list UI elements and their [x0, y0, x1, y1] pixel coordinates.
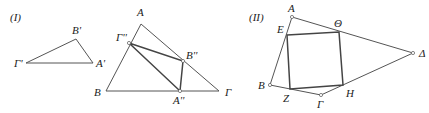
inscribed-triangle: [129, 43, 183, 91]
vertex-label-gamma-prime: Γ': [13, 57, 23, 69]
geometry-diagram: (I) B' Γ' A' A B Γ Γ'' B'' A'' (II) A Δ …: [0, 0, 429, 113]
figure-2: (II) A Δ Γ B E Θ H Z: [249, 2, 425, 110]
point-b: [268, 83, 271, 86]
vertex-label-b: B: [94, 86, 101, 98]
point-gamma-dprime: [127, 41, 130, 44]
point-a-dprime: [178, 89, 181, 92]
vertex-label-theta: Θ: [334, 17, 342, 29]
point-gamma: [319, 93, 322, 96]
vertex-label-a-prime: A': [95, 57, 106, 69]
point-a: [290, 15, 293, 18]
vertex-label-b-2: B: [258, 79, 265, 91]
vertex-label-gamma: Γ: [224, 86, 232, 98]
point-b-dprime: [181, 59, 184, 62]
vertex-label-h: H: [345, 87, 355, 99]
inscribed-square: [287, 32, 343, 89]
point-delta: [411, 51, 414, 54]
vertex-label-e: E: [276, 23, 284, 35]
vertex-label-delta: Δ: [418, 47, 425, 59]
small-triangle: [26, 39, 93, 63]
figure-1: (I) B' Γ' A' A B Γ Γ'' B'' A'': [10, 6, 232, 106]
vertex-label-a-dprime: A'': [172, 94, 185, 106]
figure-2-label: (II): [249, 11, 264, 24]
vertex-label-gamma-dprime: Γ'': [115, 31, 128, 43]
vertex-label-a-2: A: [287, 2, 295, 14]
vertex-label-b-dprime: B'': [186, 49, 198, 61]
vertex-label-b-prime: B': [72, 24, 82, 36]
vertex-label-a: A: [136, 6, 144, 18]
vertex-label-z: Z: [283, 92, 290, 104]
vertex-label-gamma-2: Γ: [316, 98, 324, 110]
figure-1-label: (I): [10, 11, 21, 24]
